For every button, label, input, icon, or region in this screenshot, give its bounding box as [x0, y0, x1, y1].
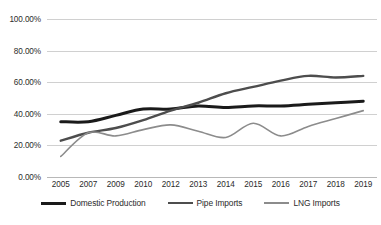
x-axis-tick-label: 2005: [47, 180, 75, 194]
y-axis-tick-label: 100.00%: [9, 15, 41, 24]
y-axis-tick-label: 80.00%: [14, 46, 41, 55]
x-axis-tick-label: 2014: [212, 180, 240, 194]
x-axis-tick-label: 2019: [350, 180, 378, 194]
x-axis-tick-label: 2012: [157, 180, 185, 194]
legend-item[interactable]: Pipe Imports: [168, 198, 243, 208]
legend-item[interactable]: LNG Imports: [264, 198, 339, 208]
y-axis-tick-label: 60.00%: [14, 78, 41, 87]
x-axis-tick-label: 2009: [102, 180, 130, 194]
legend-item[interactable]: Domestic Production: [41, 198, 145, 208]
legend-swatch-icon: [168, 202, 193, 204]
legend-swatch-icon: [41, 202, 66, 205]
x-axis: 2005200720092010201220132014201520162017…: [47, 180, 377, 194]
chart-legend: Domestic ProductionPipe ImportsLNG Impor…: [0, 198, 381, 208]
x-axis-tick-label: 2015: [240, 180, 268, 194]
plot-area: [47, 19, 377, 177]
y-axis-tick-label: 0.00%: [18, 173, 41, 182]
series-container: [47, 19, 377, 177]
x-axis-tick-label: 2010: [130, 180, 158, 194]
legend-label: Pipe Imports: [197, 198, 243, 208]
series-line: [61, 76, 364, 141]
series-line: [61, 101, 364, 122]
legend-label: Domestic Production: [70, 198, 145, 208]
y-axis-tick-label: 40.00%: [14, 109, 41, 118]
x-axis-tick-label: 2018: [322, 180, 350, 194]
y-axis-tick-label: 20.00%: [14, 141, 41, 150]
gridline: [47, 177, 377, 178]
x-axis-tick-label: 2016: [267, 180, 295, 194]
y-axis: 0.00%20.00%40.00%60.00%80.00%100.00%: [0, 0, 44, 225]
line-chart: 0.00%20.00%40.00%60.00%80.00%100.00% 200…: [0, 0, 381, 225]
x-axis-tick-label: 2013: [185, 180, 213, 194]
legend-label: LNG Imports: [293, 198, 339, 208]
x-axis-tick-label: 2017: [295, 180, 323, 194]
legend-swatch-icon: [264, 202, 289, 204]
x-axis-tick-label: 2007: [75, 180, 103, 194]
